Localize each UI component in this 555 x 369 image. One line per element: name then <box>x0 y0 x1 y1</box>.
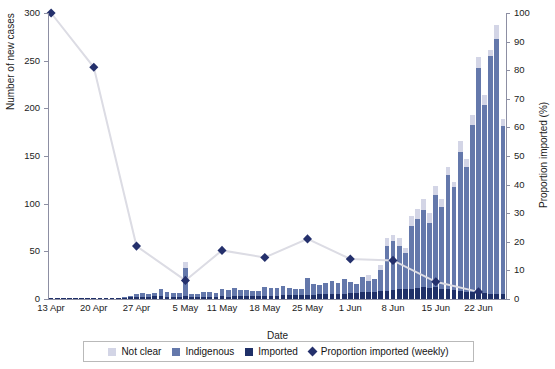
proportion-marker-5 <box>260 253 269 262</box>
y-label-left: 150 <box>24 151 40 161</box>
proportion-marker-9 <box>431 277 440 286</box>
legend-swatch-icon <box>245 348 253 356</box>
y-label-right: 20 <box>514 237 525 247</box>
y-tick-right <box>506 213 510 214</box>
y-tick-right <box>506 13 510 14</box>
y-tick-right <box>506 42 510 43</box>
y-tick-right <box>506 156 510 157</box>
y-tick-left <box>44 108 48 109</box>
x-label-7: 1 Jun <box>339 303 362 313</box>
legend-item-1: Indigenous <box>172 346 234 357</box>
y-tick-left <box>44 13 48 14</box>
chart-legend: Not clearIndigenousImportedProportion im… <box>83 341 474 362</box>
y-tick-left <box>44 156 48 157</box>
x-label-1: 20 Apr <box>80 303 107 313</box>
legend-label: Imported <box>258 346 297 357</box>
x-label-6: 25 May <box>292 303 323 313</box>
y-label-right: 60 <box>514 122 525 132</box>
x-label-4: 11 May <box>207 303 237 313</box>
x-tick <box>48 320 49 324</box>
proportion-marker-10 <box>474 287 483 296</box>
y-tick-right <box>506 299 510 300</box>
y-tick-right <box>506 185 510 186</box>
y-tick-right <box>506 70 510 71</box>
y-tick-left <box>44 61 48 62</box>
y-tick-left <box>44 204 48 205</box>
y-tick-right <box>506 127 510 128</box>
legend-item-0: Not clear <box>108 346 161 357</box>
proportion-line <box>51 13 478 292</box>
y-axis-left-line <box>48 13 49 299</box>
y-tick-right <box>506 99 510 100</box>
y-label-left: 50 <box>29 246 40 256</box>
legend-label: Proportion imported (weekly) <box>321 346 449 357</box>
proportion-marker-7 <box>346 254 355 263</box>
y-label-right: 50 <box>514 151 525 161</box>
y-label-right: 70 <box>514 94 525 104</box>
legend-swatch-icon <box>108 348 116 356</box>
y-label-left: 100 <box>24 199 40 209</box>
legend-label: Indigenous <box>185 346 234 357</box>
x-label-10: 22 Jun <box>464 303 493 313</box>
y-tick-left <box>44 251 48 252</box>
x-label-9: 15 Jun <box>422 303 451 313</box>
y-label-left: 250 <box>24 56 40 66</box>
x-label-3: 5 May <box>172 303 198 313</box>
plot-area <box>48 13 506 299</box>
x-label-0: 13 Apr <box>37 303 64 313</box>
x-label-8: 8 Jun <box>381 303 404 313</box>
y-label-right: 10 <box>514 265 525 275</box>
y-tick-right <box>506 242 510 243</box>
x-axis-title: Date <box>0 330 555 341</box>
y-axis-left-title: Number of new cases <box>5 13 16 110</box>
y-axis-right-title: Proportion imported (%) <box>538 102 549 208</box>
y-label-left: 300 <box>24 8 40 18</box>
y-tick-right <box>506 270 510 271</box>
y-label-right: 100 <box>514 8 530 18</box>
chart-container: Number of new cases Proportion imported … <box>0 0 555 369</box>
y-label-right: 80 <box>514 65 525 75</box>
x-label-5: 18 May <box>249 303 280 313</box>
y-tick-left <box>44 299 48 300</box>
x-label-2: 27 Apr <box>123 303 150 313</box>
legend-item-2: Imported <box>245 346 297 357</box>
y-label-left: 200 <box>24 103 40 113</box>
legend-swatch-icon <box>172 348 180 356</box>
y-label-right: 40 <box>514 180 525 190</box>
legend-diamond-icon <box>307 347 317 357</box>
proportion-marker-6 <box>303 234 312 243</box>
y-label-right: 0 <box>514 294 519 304</box>
y-label-right: 90 <box>514 37 525 47</box>
legend-label: Not clear <box>121 346 161 357</box>
proportion-line-overlay <box>48 13 506 299</box>
proportion-marker-8 <box>388 256 397 265</box>
x-axis-line <box>48 299 506 300</box>
legend-item-3: Proportion imported (weekly) <box>309 346 449 357</box>
y-label-right: 30 <box>514 208 525 218</box>
